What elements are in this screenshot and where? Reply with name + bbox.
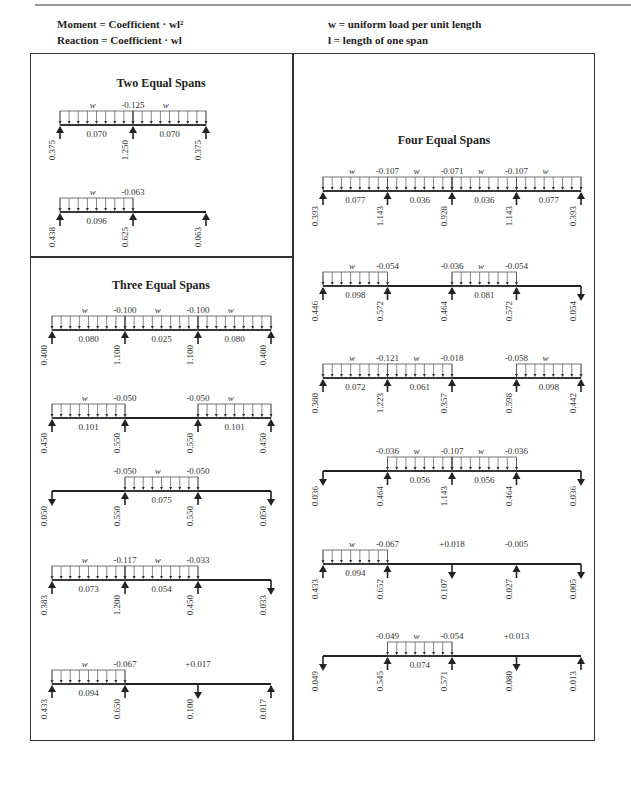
svg-text:-0.036: -0.036 — [376, 446, 400, 456]
svg-text:0.650: 0.650 — [112, 699, 122, 720]
svg-text:0.081: 0.081 — [474, 290, 494, 300]
svg-text:0.080: 0.080 — [78, 334, 99, 344]
svg-text:w: w — [414, 166, 420, 176]
svg-text:0.383: 0.383 — [39, 595, 49, 616]
svg-text:w: w — [82, 555, 88, 565]
svg-text:-0.050: -0.050 — [113, 466, 137, 476]
svg-text:0.080: 0.080 — [224, 334, 245, 344]
svg-text:-0.063: -0.063 — [121, 187, 145, 197]
svg-text:0.433: 0.433 — [39, 699, 49, 720]
beam-case-three-1: www-0.100-0.1000.0800.0250.0800.4001.100… — [39, 305, 275, 365]
svg-text:-0.058: -0.058 — [505, 353, 529, 363]
svg-text:-0.100: -0.100 — [186, 305, 210, 315]
svg-text:0.054: 0.054 — [568, 301, 578, 322]
svg-text:w: w — [349, 261, 355, 271]
svg-text:w: w — [155, 305, 161, 315]
beam-case-four-4: ww-0.036-0.107-0.0360.0560.0560.0360.464… — [310, 446, 585, 506]
svg-text:0.464: 0.464 — [504, 486, 514, 507]
svg-text:0.442: 0.442 — [568, 393, 578, 413]
svg-text:1.223: 1.223 — [375, 393, 385, 414]
svg-text:w: w — [414, 631, 420, 641]
svg-text:0.005: 0.005 — [568, 579, 578, 600]
svg-text:0.075: 0.075 — [151, 495, 172, 505]
svg-text:w: w — [163, 100, 169, 110]
beam-case-three-3: w-0.050-0.0500.0750.0500.5500.5500.050 — [39, 466, 275, 526]
svg-text:0.074: 0.074 — [410, 660, 431, 670]
svg-text:0.056: 0.056 — [474, 475, 495, 485]
beam-case-two-1: ww-0.1250.0700.0700.3751.2500.375 — [47, 100, 210, 160]
svg-text:w: w — [90, 100, 96, 110]
svg-text:w: w — [155, 555, 161, 565]
svg-text:-0.125: -0.125 — [121, 100, 145, 110]
svg-text:0.094: 0.094 — [78, 688, 99, 698]
svg-text:0.928: 0.928 — [439, 206, 449, 227]
svg-text:w: w — [155, 466, 161, 476]
svg-text:1.100: 1.100 — [185, 345, 195, 366]
svg-text:-0.107: -0.107 — [505, 166, 529, 176]
svg-text:0.077: 0.077 — [539, 195, 560, 205]
svg-text:w: w — [543, 353, 549, 363]
svg-text:0.025: 0.025 — [151, 334, 172, 344]
svg-text:0.400: 0.400 — [39, 345, 49, 366]
svg-text:-0.121: -0.121 — [376, 353, 399, 363]
svg-text:0.464: 0.464 — [439, 301, 449, 322]
svg-text:+0.018: +0.018 — [439, 539, 465, 549]
svg-text:0.393: 0.393 — [568, 206, 578, 227]
svg-text:0.027: 0.027 — [504, 579, 514, 600]
svg-text:w: w — [228, 305, 234, 315]
svg-text:1.143: 1.143 — [375, 206, 385, 227]
svg-text:0.033: 0.033 — [258, 595, 268, 616]
svg-text:-0.107: -0.107 — [376, 166, 400, 176]
svg-text:w: w — [228, 393, 234, 403]
svg-text:0.070: 0.070 — [86, 129, 107, 139]
svg-text:0.070: 0.070 — [159, 129, 180, 139]
svg-text:0.433: 0.433 — [310, 579, 320, 600]
beam-case-three-2: ww-0.050-0.0500.1010.1010.4500.5500.5500… — [39, 393, 275, 453]
svg-text:0.077: 0.077 — [345, 195, 366, 205]
svg-text:w: w — [82, 659, 88, 669]
svg-text:0.598: 0.598 — [504, 393, 514, 414]
svg-text:w: w — [414, 446, 420, 456]
beam-case-four-2: ww-0.054-0.036-0.0540.0980.0810.4460.572… — [310, 261, 585, 321]
svg-text:0.393: 0.393 — [310, 206, 320, 227]
svg-text:1.143: 1.143 — [439, 486, 449, 507]
svg-text:0.098: 0.098 — [345, 290, 366, 300]
svg-text:0.073: 0.073 — [78, 584, 99, 594]
svg-text:0.036: 0.036 — [474, 195, 495, 205]
beam-case-three-5: w-0.067+0.0170.0940.4330.6500.1000.017 — [39, 659, 275, 719]
svg-text:0.056: 0.056 — [410, 475, 431, 485]
svg-text:0.013: 0.013 — [568, 671, 578, 692]
svg-text:0.545: 0.545 — [375, 671, 385, 692]
svg-text:-0.036: -0.036 — [505, 446, 529, 456]
svg-text:0.550: 0.550 — [185, 506, 195, 527]
svg-text:-0.067: -0.067 — [376, 539, 400, 549]
svg-text:w: w — [478, 261, 484, 271]
svg-text:0.375: 0.375 — [47, 140, 57, 161]
svg-text:-0.050: -0.050 — [186, 466, 210, 476]
svg-text:0.049: 0.049 — [310, 671, 320, 692]
svg-text:-0.018: -0.018 — [440, 353, 464, 363]
beam-diagrams: ww-0.1250.0700.0700.3751.2500.375w-0.063… — [0, 0, 631, 790]
svg-text:-0.005: -0.005 — [505, 539, 529, 549]
svg-text:0.017: 0.017 — [258, 699, 268, 720]
svg-text:-0.054: -0.054 — [440, 631, 464, 641]
svg-text:-0.033: -0.033 — [186, 555, 210, 565]
beam-case-four-6: w-0.049-0.054+0.0130.0740.0490.5450.5710… — [310, 631, 585, 691]
svg-text:0.096: 0.096 — [86, 216, 107, 226]
svg-text:0.107: 0.107 — [439, 579, 449, 600]
svg-text:0.036: 0.036 — [410, 195, 431, 205]
svg-text:0.652: 0.652 — [375, 579, 385, 599]
svg-text:0.063: 0.063 — [193, 227, 203, 248]
svg-text:0.080: 0.080 — [504, 671, 514, 692]
svg-text:0.464: 0.464 — [375, 486, 385, 507]
svg-text:0.550: 0.550 — [185, 433, 195, 454]
svg-text:w: w — [349, 539, 355, 549]
svg-text:0.098: 0.098 — [539, 382, 560, 392]
svg-text:w: w — [478, 166, 484, 176]
svg-text:0.450: 0.450 — [39, 433, 49, 454]
svg-text:0.450: 0.450 — [185, 595, 195, 616]
svg-text:w: w — [478, 446, 484, 456]
svg-text:0.100: 0.100 — [185, 699, 195, 720]
beam-case-four-1: wwww-0.107-0.071-0.1070.0770.0360.0360.0… — [310, 166, 585, 226]
svg-text:0.572: 0.572 — [504, 301, 514, 321]
